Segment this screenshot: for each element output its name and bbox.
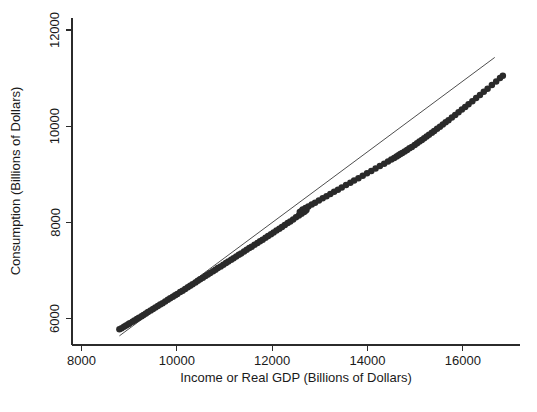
x-tick-label: 12000 [254, 353, 290, 368]
y-tick-label: 6000 [48, 304, 63, 333]
y-axis-title: Consumption (Billions of Dollars) [8, 87, 23, 276]
scatter-chart: 600080001000012000 800010000120001400016… [0, 0, 537, 412]
x-tick-label: 16000 [445, 353, 481, 368]
y-tick-label: 10000 [48, 108, 63, 144]
plot-axes [72, 18, 520, 345]
x-axis-ticks: 800010000120001400016000 [67, 345, 481, 368]
chart-page: 600080001000012000 800010000120001400016… [0, 0, 537, 412]
y-axis-ticks: 600080001000012000 [48, 12, 73, 333]
x-tick-label: 10000 [159, 353, 195, 368]
x-axis-title: Income or Real GDP (Billions of Dollars) [180, 370, 412, 385]
x-tick-label: 14000 [349, 353, 385, 368]
y-tick-label: 12000 [48, 12, 63, 48]
y-tick-label: 8000 [48, 208, 63, 237]
x-tick-label: 8000 [67, 353, 96, 368]
data-points [116, 72, 506, 332]
data-point [500, 72, 507, 79]
